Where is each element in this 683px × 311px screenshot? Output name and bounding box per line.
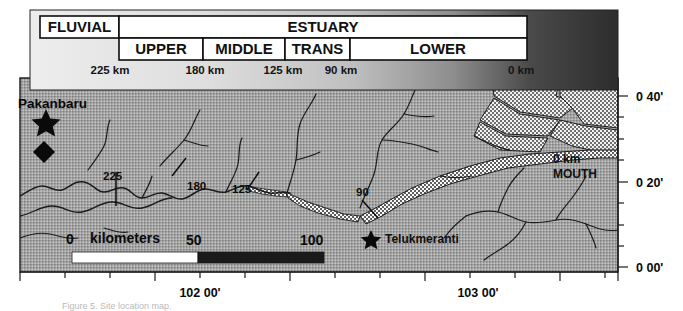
figure-site-location-map: Pakanbaru Telukmeranti 0 km MOUTH 225 18…: [0, 0, 683, 311]
scale-tick-50: 50: [186, 232, 202, 248]
lat-label-0-00: 0 00': [636, 261, 663, 275]
lon-label-103-00: 103 00': [457, 286, 498, 300]
scale-tick-0: 0: [66, 231, 74, 247]
label-telukmeranti: Telukmeranti: [385, 232, 459, 246]
label-mouth: MOUTH: [553, 167, 597, 181]
zone-label-estuary: ESTUARY: [287, 18, 358, 35]
distance-label-180km: 180 km: [185, 64, 224, 76]
label-pakanbaru: Pakanbaru: [18, 96, 87, 111]
distance-label-125km: 125 km: [263, 64, 302, 76]
distance-label-90km: 90 km: [325, 64, 358, 76]
latitude-axis: 0 40' 0 20' 0 00': [618, 78, 663, 275]
distance-label-225km: 225 km: [90, 64, 129, 76]
lon-label-102-00: 102 00': [179, 286, 220, 300]
svg-text:180: 180: [187, 180, 206, 192]
zone-label-upper: UPPER: [135, 40, 187, 57]
zone-label-trans: TRANS: [292, 40, 344, 57]
label-mouth-km: 0 km: [553, 152, 580, 166]
zonation-header-panel: FLUVIAL ESTUARY UPPER MIDDLE TRANS LOWER…: [30, 10, 618, 90]
zone-label-lower: LOWER: [410, 40, 466, 57]
distance-label-0km: 0 km: [508, 64, 534, 76]
longitude-axis: 102 00' 103 00': [20, 272, 618, 300]
zone-label-fluvial: FLUVIAL: [48, 18, 111, 35]
zone-label-middle: MIDDLE: [215, 40, 273, 57]
zonation-row-2: UPPER MIDDLE TRANS LOWER: [119, 38, 527, 60]
svg-text:225: 225: [103, 170, 123, 182]
scale-bar-label: kilometers: [90, 230, 160, 246]
scale-tick-100: 100: [300, 232, 324, 248]
lat-label-0-20: 0 20': [636, 176, 663, 190]
scale-bar-segment-black: [198, 252, 324, 263]
lat-label-0-40: 0 40': [636, 90, 663, 104]
scale-bar-segment-white: [72, 252, 198, 263]
figure-caption: Figure 5. Site location map.: [62, 301, 172, 311]
zonation-row-1: FLUVIAL ESTUARY: [40, 16, 527, 38]
svg-text:90: 90: [356, 186, 369, 198]
svg-text:125: 125: [232, 183, 252, 195]
